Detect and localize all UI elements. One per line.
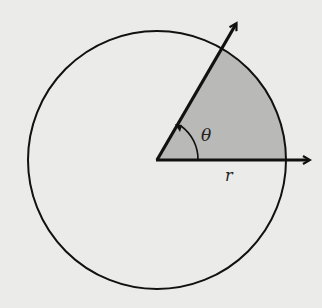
radius-label: r [225,166,234,185]
sector-diagram: θ r [0,0,322,308]
shaded-sector [157,48,286,160]
theta-label: θ [201,125,211,145]
